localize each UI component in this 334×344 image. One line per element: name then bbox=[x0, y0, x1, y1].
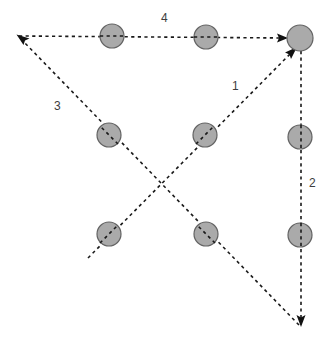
diagram-canvas: 1 2 3 4 bbox=[0, 0, 334, 344]
edge-1-group bbox=[88, 47, 297, 258]
edge-4-line bbox=[19, 36, 286, 38]
node-middle-right[interactable] bbox=[288, 125, 312, 149]
edge-2-group bbox=[297, 51, 306, 327]
edge-4-label: 4 bbox=[161, 12, 168, 24]
edge-3-line bbox=[22, 40, 299, 325]
node-top-right[interactable] bbox=[287, 25, 313, 51]
diagram-svg bbox=[0, 0, 334, 344]
edge-4-group bbox=[19, 34, 288, 43]
node-bottom-right[interactable] bbox=[288, 223, 312, 247]
edge-3-label: 3 bbox=[54, 100, 61, 112]
edge-2-label: 2 bbox=[309, 177, 316, 189]
edge-3-group bbox=[17, 35, 300, 326]
edge-1-label: 1 bbox=[232, 80, 239, 92]
